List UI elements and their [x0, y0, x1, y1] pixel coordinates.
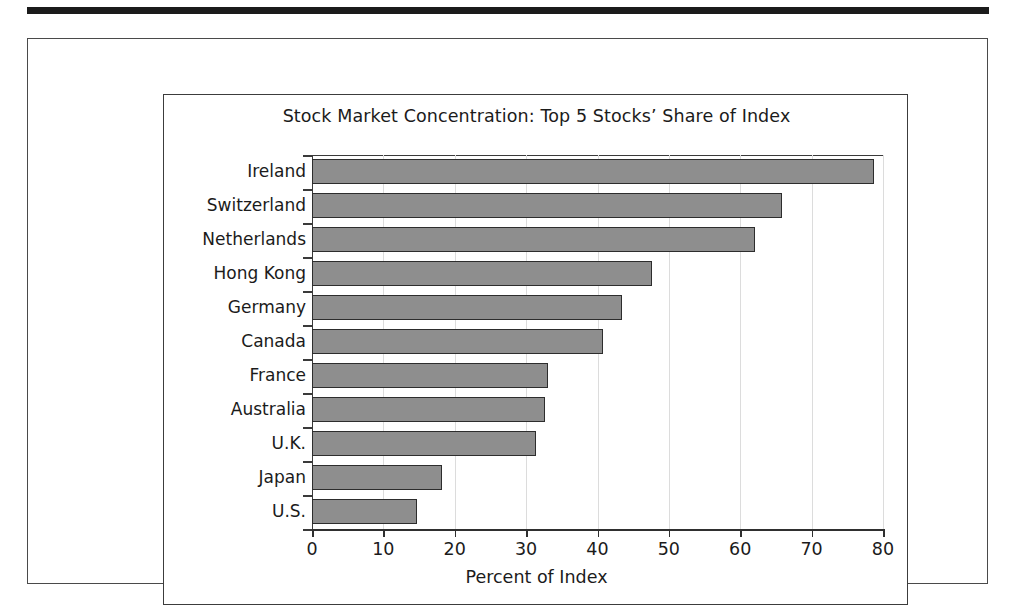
bar-row [312, 223, 883, 257]
gridline-80 [883, 155, 884, 529]
bar-row [312, 393, 883, 427]
x-tick-40 [598, 529, 600, 537]
x-tick-0 [312, 529, 314, 537]
y-axis-label-canada: Canada [126, 331, 306, 351]
y-axis-label-hong-kong: Hong Kong [126, 263, 306, 283]
bar-row [312, 359, 883, 393]
bar-row [312, 427, 883, 461]
x-tick-label-30: 30 [496, 539, 556, 559]
y-axis-label-france: France [126, 365, 306, 385]
y-axis-label-netherlands: Netherlands [126, 229, 306, 249]
y-tick [303, 393, 312, 395]
y-axis-label-u-k: U.K. [126, 433, 306, 453]
top-rule [27, 7, 989, 14]
x-tick-80 [883, 529, 885, 537]
x-tick-label-50: 50 [639, 539, 699, 559]
bar-row [312, 461, 883, 495]
bar-u-s [312, 499, 417, 524]
x-tick-label-20: 20 [425, 539, 485, 559]
y-tick [303, 461, 312, 463]
x-tick-label-70: 70 [782, 539, 842, 559]
chart-panel: Stock Market Concentration: Top 5 Stocks… [163, 94, 908, 605]
y-axis-label-switzerland: Switzerland [126, 195, 306, 215]
bar-france [312, 363, 548, 388]
y-axis-label-u-s: U.S. [126, 501, 306, 521]
x-tick-10 [383, 529, 385, 537]
chart-title: Stock Market Concentration: Top 5 Stocks… [164, 106, 909, 126]
y-axis-label-japan: Japan [126, 467, 306, 487]
bar-row [312, 291, 883, 325]
y-axis-label-australia: Australia [126, 399, 306, 419]
bar-japan [312, 465, 442, 490]
x-axis-title: Percent of Index [164, 567, 909, 587]
plot-area [312, 155, 883, 529]
bar-row [312, 155, 883, 189]
y-tick [303, 359, 312, 361]
y-tick [303, 427, 312, 429]
y-axis-label-germany: Germany [126, 297, 306, 317]
bar-hong-kong [312, 261, 652, 286]
y-tick [303, 291, 312, 293]
y-tick [303, 495, 312, 497]
y-axis-labels: IrelandSwitzerlandNetherlandsHong KongGe… [152, 155, 312, 529]
bar-germany [312, 295, 622, 320]
y-tick [303, 529, 312, 531]
y-tick [303, 189, 312, 191]
bar-row [312, 325, 883, 359]
x-tick-20 [455, 529, 457, 537]
figure-box: Stock Market Concentration: Top 5 Stocks… [27, 38, 988, 584]
y-axis-label-ireland: Ireland [126, 161, 306, 181]
x-tick-50 [669, 529, 671, 537]
x-tick-70 [812, 529, 814, 537]
x-tick-30 [526, 529, 528, 537]
y-tick [303, 223, 312, 225]
bar-u-k [312, 431, 536, 456]
bar-australia [312, 397, 545, 422]
y-tick [303, 325, 312, 327]
x-tick-label-80: 80 [853, 539, 913, 559]
bar-row [312, 189, 883, 223]
y-tick [303, 155, 312, 157]
x-tick-label-60: 60 [710, 539, 770, 559]
x-tick-label-40: 40 [568, 539, 628, 559]
bar-canada [312, 329, 603, 354]
bar-row [312, 257, 883, 291]
bar-ireland [312, 159, 874, 184]
x-tick-label-0: 0 [282, 539, 342, 559]
bar-netherlands [312, 227, 755, 252]
x-tick-60 [740, 529, 742, 537]
bar-switzerland [312, 193, 782, 218]
bar-row [312, 495, 883, 529]
x-tick-label-10: 10 [353, 539, 413, 559]
y-tick [303, 257, 312, 259]
